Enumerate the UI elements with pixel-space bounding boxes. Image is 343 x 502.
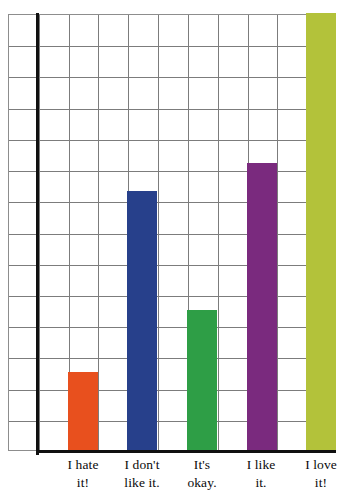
bars-group bbox=[8, 14, 336, 451]
x-axis-line bbox=[36, 450, 336, 453]
bar bbox=[247, 163, 277, 450]
x-axis-label-line1: I love bbox=[276, 456, 343, 474]
bar bbox=[68, 372, 98, 450]
bar bbox=[306, 13, 336, 450]
bar-chart: I hateit!I don'tlike it.It'sokay.I likei… bbox=[0, 0, 343, 502]
y-axis-line bbox=[36, 13, 39, 455]
x-axis-label-line2: it! bbox=[276, 474, 343, 492]
x-axis-label: I loveit! bbox=[276, 456, 343, 492]
x-axis-labels: I hateit!I don'tlike it.It'sokay.I likei… bbox=[0, 456, 343, 502]
bar bbox=[127, 191, 157, 450]
bar bbox=[187, 310, 217, 450]
